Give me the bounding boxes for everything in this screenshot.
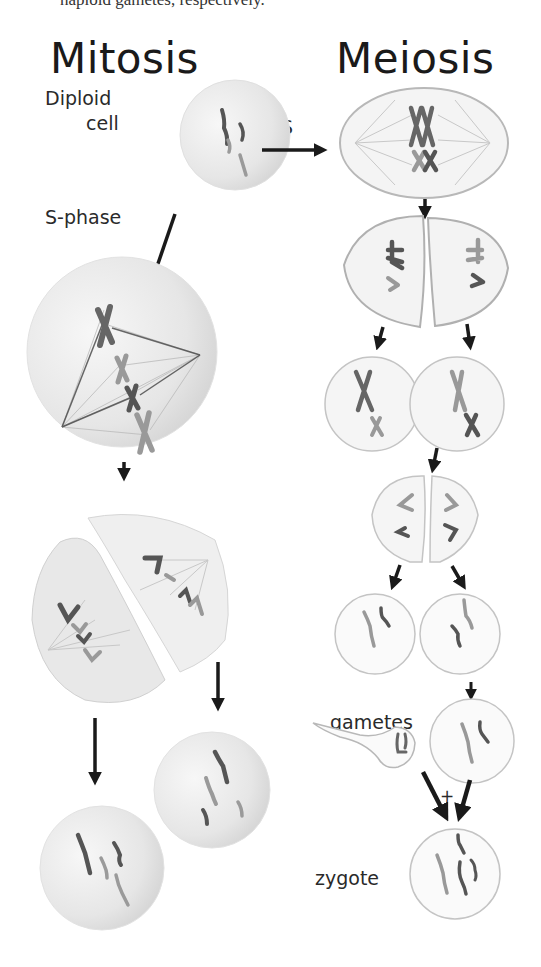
zygote-cell [410, 829, 500, 919]
mitosis-metaphase-cell [27, 257, 217, 452]
meiosis-arrow-left [378, 327, 383, 345]
egg-to-zygote-arrow [460, 780, 470, 815]
cell-division-diagram [0, 0, 541, 967]
mitosis-telophase-cells [32, 514, 228, 702]
meiosis-arrow-gamete-right [452, 566, 463, 585]
sperm-cell [313, 723, 415, 768]
haploid-gametes [335, 594, 500, 674]
meiosis-II-metaphase-cells [325, 357, 504, 451]
meiosis-II-telophase-cells [372, 476, 478, 562]
mitosis-daughter-cell-right [154, 732, 270, 848]
meiosis-arrow-2 [433, 448, 437, 468]
mitosis-daughter-cell-left [40, 806, 164, 930]
diploid-cell [180, 80, 290, 190]
meiosis-arrow-gamete-left [393, 565, 400, 585]
meiosis-arrow-right [467, 324, 470, 345]
sperm-to-zygote-arrow [423, 772, 445, 815]
meiosis-I-telophase-cells [344, 216, 508, 327]
meiosis-I-metaphase-cell [340, 88, 508, 198]
egg-cell [430, 699, 514, 783]
